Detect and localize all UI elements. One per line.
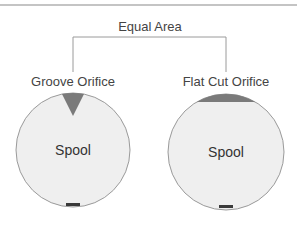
- spool-label-left: Spool: [55, 143, 91, 157]
- flat-cut-orifice-label: Flat Cut Orifice: [183, 75, 270, 88]
- orifice-comparison-diagram: Equal Area Groove Orifice Flat Cut Orifi…: [0, 0, 297, 226]
- logo-mark-left: [66, 203, 80, 206]
- groove-orifice-label: Groove Orifice: [31, 75, 115, 88]
- logo-mark-right: [219, 205, 233, 208]
- diagram-title: Equal Area: [118, 20, 182, 33]
- flat-cut-orifice-icon: [160, 90, 297, 102]
- spool-label-right: Spool: [208, 145, 244, 159]
- equal-area-bracket: [73, 37, 226, 72]
